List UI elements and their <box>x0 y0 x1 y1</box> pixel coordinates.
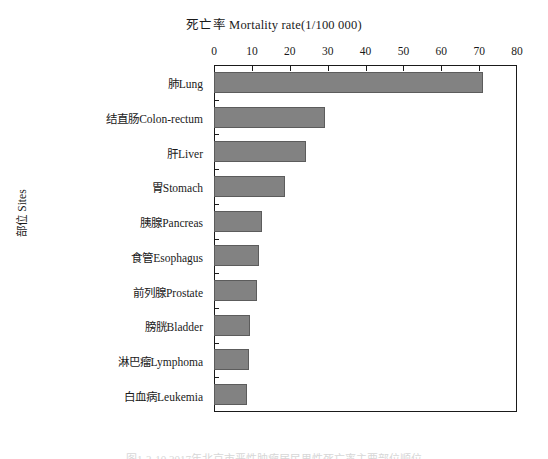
category-label: 胰腺Pancreas <box>0 214 209 230</box>
x-axis-tick-label: 30 <box>308 45 348 57</box>
figure-caption: 图1-2-10 2017年北京市恶性肿瘤居民男性死亡率主要部位顺位 <box>0 450 548 459</box>
category-label: 肺Lung <box>0 75 209 91</box>
y-axis-tick <box>214 273 219 274</box>
category-label: 淋巴瘤Lymphoma <box>0 353 209 369</box>
category-label-group: 肺Lung结直肠Colon-rectum肝Liver胃Stomach胰腺Panc… <box>0 65 209 412</box>
chart-title: 死亡率 Mortality rate(1/100 000) <box>0 14 548 33</box>
bar <box>214 72 483 93</box>
category-label: 结直肠Colon-rectum <box>0 110 209 126</box>
x-axis-tick <box>479 65 480 71</box>
x-axis-tick <box>328 65 329 71</box>
bar <box>214 141 306 162</box>
x-axis-tick-label: 50 <box>383 45 423 57</box>
y-axis-tick <box>214 308 219 309</box>
category-label: 前列腺Prostate <box>0 284 209 300</box>
x-axis-tick-label: 0 <box>194 45 234 57</box>
bar <box>214 349 249 370</box>
figure-bar-chart: 死亡率 Mortality rate(1/100 000) 部位 Sites 肺… <box>0 0 548 459</box>
x-axis-tick <box>403 65 404 71</box>
x-axis-tick-label: 20 <box>270 45 310 57</box>
category-label: 胃Stomach <box>0 179 209 195</box>
y-axis-tick <box>214 343 219 344</box>
x-axis-tick <box>441 65 442 71</box>
y-axis-tick <box>214 100 219 101</box>
y-axis-tick <box>214 239 219 240</box>
y-axis-tick <box>214 169 219 170</box>
x-axis-tick-label: 60 <box>421 45 461 57</box>
x-axis-tick-label: 70 <box>459 45 499 57</box>
plot-area: 01020304050607080 <box>214 65 517 412</box>
x-axis-tick-label: 80 <box>497 45 537 57</box>
bar <box>214 245 259 266</box>
category-label: 白血病Leukemia <box>0 388 209 404</box>
x-axis-tick-label: 10 <box>232 45 272 57</box>
y-axis-tick <box>214 134 219 135</box>
bar <box>214 107 325 128</box>
x-axis-tick <box>516 65 517 71</box>
x-axis-tick <box>214 65 215 71</box>
x-axis-tick-label: 40 <box>346 45 386 57</box>
category-label: 膀胱Bladder <box>0 318 209 334</box>
x-axis-tick <box>290 65 291 71</box>
y-axis-tick <box>214 377 219 378</box>
category-label: 食管Esophagus <box>0 249 209 265</box>
bar <box>214 176 285 197</box>
category-label: 肝Liver <box>0 145 209 161</box>
bar <box>214 211 262 232</box>
x-axis-tick <box>366 65 367 71</box>
x-axis-tick <box>252 65 253 71</box>
bar <box>214 315 250 336</box>
bar <box>214 280 257 301</box>
bar <box>214 384 247 405</box>
y-axis-tick <box>214 204 219 205</box>
